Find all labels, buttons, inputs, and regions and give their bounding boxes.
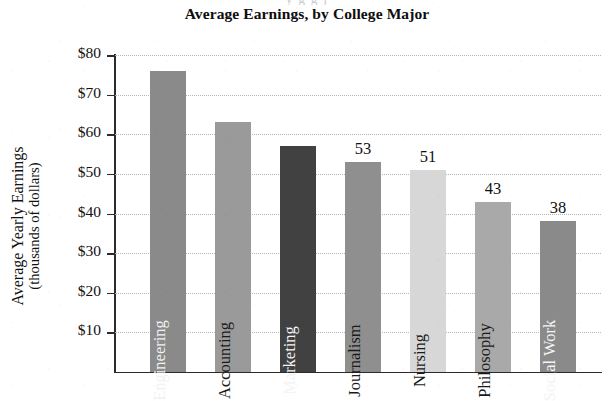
bar-category-label: Journalism bbox=[347, 324, 364, 396]
bar-value-label: 43 bbox=[485, 179, 502, 199]
tick-mark bbox=[107, 95, 115, 97]
y-axis-title-line-2: (thousands of dollars) bbox=[27, 162, 43, 289]
bar-value-label: 38 bbox=[550, 198, 567, 218]
gridline bbox=[115, 134, 601, 135]
bar: Journalism53 bbox=[345, 162, 381, 372]
y-axis-tick-label: $10 bbox=[78, 321, 101, 339]
gridline bbox=[115, 55, 601, 56]
y-axis-tick-label: $30 bbox=[78, 242, 101, 260]
tick-mark bbox=[107, 214, 115, 216]
bar: Engineering bbox=[150, 71, 186, 372]
y-axis-tick-label: $40 bbox=[78, 203, 101, 221]
bar: Accounting bbox=[215, 122, 251, 372]
gridline bbox=[115, 95, 601, 96]
bar-category-label: Philosophy bbox=[477, 323, 494, 397]
y-axis-tick-label: $80 bbox=[78, 44, 101, 62]
bar: Nursing51 bbox=[410, 170, 446, 372]
chart-title: Average Earnings, by College Major bbox=[0, 5, 614, 23]
tick-mark bbox=[107, 134, 115, 136]
tick-mark bbox=[107, 55, 115, 57]
bar: Marketing bbox=[280, 146, 316, 372]
bar: Philosophy43 bbox=[475, 202, 511, 372]
plot-area: $80$70$60$50$40$30$20$10 EngineeringAcco… bbox=[115, 55, 601, 372]
bar-value-label: 53 bbox=[355, 139, 372, 159]
bar-category-label: Social Work bbox=[542, 319, 559, 400]
tick-mark bbox=[107, 174, 115, 176]
y-axis-title: Average Yearly Earnings (thousands of do… bbox=[3, 61, 49, 391]
bar-category-label: Marketing bbox=[282, 326, 299, 395]
bar-category-label: Nursing bbox=[412, 333, 429, 386]
y-axis-tick-label: $20 bbox=[78, 282, 101, 300]
bar-category-label: Accounting bbox=[217, 322, 234, 399]
y-axis-tick-label: $50 bbox=[78, 163, 101, 181]
tick-mark bbox=[107, 253, 115, 255]
bar: Social Work38 bbox=[540, 221, 576, 372]
y-axis-tick-label: $70 bbox=[78, 84, 101, 102]
bar-category-label: Engineering bbox=[152, 320, 169, 401]
y-axis-tick-label: $60 bbox=[78, 123, 101, 141]
tick-mark bbox=[107, 332, 115, 334]
tick-mark bbox=[107, 293, 115, 295]
bar-value-label: 51 bbox=[420, 147, 437, 167]
y-axis-title-line-1: Average Yearly Earnings bbox=[9, 146, 26, 305]
